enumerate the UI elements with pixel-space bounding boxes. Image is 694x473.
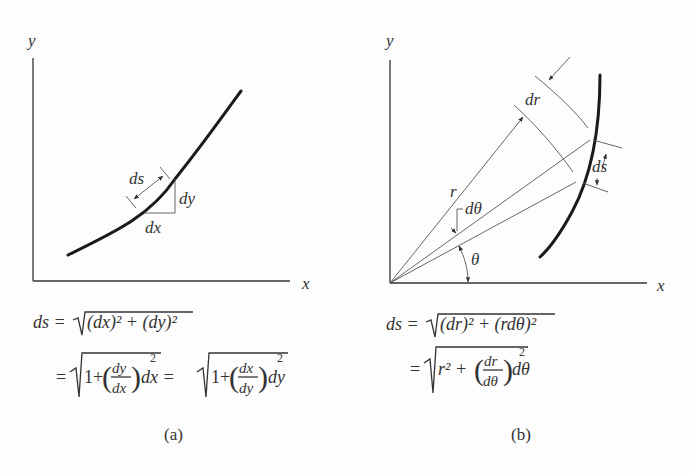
theta-arc (459, 246, 468, 282)
svg-text:2: 2 (277, 351, 283, 365)
svg-text:(: ( (102, 360, 112, 394)
panel-a-cartesian: y x ds dy dx (26, 31, 310, 293)
ds-label-b: ds (592, 157, 608, 176)
eq-a2-frac1-num: dy (112, 360, 127, 376)
dx-label: dx (145, 218, 162, 237)
dr-arrow (549, 57, 570, 80)
panel-b-polar: y x dr r ds dθ θ (384, 31, 665, 295)
x-axis-label-b: x (656, 276, 665, 295)
ray-theta-plus-dtheta (390, 140, 590, 283)
y-axis-label-a: y (26, 31, 36, 50)
eq-b2-r2: r² + (438, 359, 467, 379)
eq-a2-frac2-den: dy (239, 380, 254, 396)
eq-a2-tail1: dx = (141, 367, 175, 387)
arc-length-figure: y x ds dy dx ds = (dx)² + (dy)² = 1+ ( d… (0, 0, 694, 473)
dtheta-label: dθ (465, 199, 482, 218)
eq-a2-tail2: dy (268, 367, 285, 387)
y-axis-label-b: y (384, 31, 394, 50)
dy-label: dy (179, 189, 196, 208)
r-label: r (450, 182, 457, 201)
caption-b: (b) (511, 425, 531, 444)
eq-b2-frac-den: dθ (483, 373, 499, 389)
eq-a2-one-2: 1+ (211, 367, 230, 387)
svg-text:2: 2 (150, 351, 156, 365)
eq-a2-frac2-num: dx (239, 360, 254, 376)
eq-a2-equals: = (56, 367, 66, 387)
dtheta-leader (457, 209, 463, 231)
eq-a1-radicand: (dx)² + (dy)² (87, 312, 177, 333)
eq-a2-frac1-den: dx (112, 380, 127, 396)
caption-a: (a) (164, 425, 183, 444)
ds-tick-b-2 (583, 183, 608, 192)
dr-arc-inner (514, 105, 573, 172)
theta-label: θ (471, 250, 479, 269)
curve-b (540, 75, 600, 257)
ray-theta (390, 182, 576, 283)
svg-text:): ) (131, 360, 141, 394)
eq-b2-frac-num: dr (484, 353, 498, 369)
eq-a2-one: 1+ (84, 367, 103, 387)
x-axis-label-a: x (301, 274, 310, 293)
equations-a: ds = (dx)² + (dy)² = 1+ ( dy dx ) 2 dx =… (33, 312, 288, 444)
dr-arc-outer (535, 76, 588, 128)
ds-tick-1 (126, 196, 136, 208)
eq-b2-tail: dθ (512, 359, 530, 379)
eq-b1-radicand: (dr)² + (rdθ)² (440, 314, 537, 335)
svg-text:2: 2 (519, 345, 525, 359)
eq-b2-equals: = (410, 359, 420, 379)
ds-label-a: ds (129, 169, 145, 188)
dr-label: dr (525, 90, 541, 109)
ds-tick-b-1 (593, 140, 622, 148)
eq-a1-lhs: ds = (33, 312, 66, 332)
svg-text:(: ( (229, 360, 239, 394)
eq-b1-lhs: ds = (386, 314, 419, 334)
svg-text:): ) (258, 360, 268, 394)
equations-b: ds = (dr)² + (rdθ)² = r² + ( dr dθ ) 2 d… (386, 314, 555, 444)
